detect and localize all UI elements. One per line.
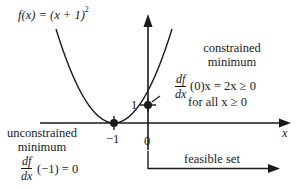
constrained-condition: for all x ≥ 0 [188,96,247,109]
function-label: f(x) = (x + 1)2 [18,8,89,22]
unconstrained-title-line2: minimum [4,141,80,154]
tick-label-0: 0 [144,135,150,148]
optimization-diagram: f(x) = (x + 1)2 x x −1 0 1 constrained m… [0,0,304,189]
tick-label-neg1: −1 [106,133,119,146]
constrained-derivative-fraction: df dx [175,73,186,100]
x-axis-label-right: x [282,127,288,140]
constrained-title-line1: constrained [193,42,271,55]
constrained-deriv-den: dx [175,87,186,100]
tick-label-y1: 1 [131,99,137,112]
unconstrained-minimum-point [110,119,118,127]
constrained-deriv-num: df [175,73,186,87]
feasible-set-arrow-icon [268,164,280,173]
function-exponent: 2 [85,5,89,14]
constrained-minimum-point [144,101,152,109]
unconstrained-title-line1: unconstrained [4,127,80,140]
constrained-title-line2: minimum [193,56,271,69]
diagram-canvas [0,0,304,189]
function-label-text: f(x) = (x + 1) [18,8,85,22]
unconstrained-derivative-fraction: df dx [21,155,32,182]
parabola-curve [56,29,172,123]
unconstrained-deriv-num: df [21,155,32,169]
unconstrained-deriv-den: dx [21,169,32,182]
y-axis-arrow-icon [144,14,153,27]
constrained-derivative-expr: (0)x = 2x ≥ 0 [190,80,256,93]
unconstrained-derivative-expr: (−1) = 0 [37,163,78,176]
derivative-pointer-line [152,96,160,102]
feasible-set-label: feasible set [184,153,240,166]
